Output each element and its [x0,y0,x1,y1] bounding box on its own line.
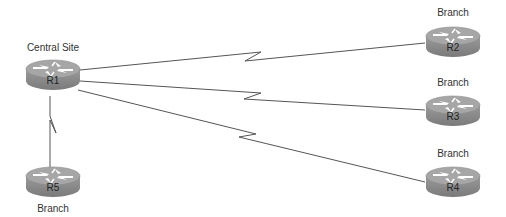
link-r1-r5 [50,96,56,170]
router-label-r1: R1 [47,75,60,86]
diagram-links [0,0,506,217]
caption-r5: Branch [37,203,69,214]
caption-r2: Branch [437,7,469,18]
link-r1-r3 [80,81,425,110]
network-diagram: Central Site R1 Branch R2 Branch R3 Bran… [0,0,506,217]
caption-r1: Central Site [27,42,79,53]
link-r1-r2 [80,43,425,70]
router-label-r3: R3 [447,111,460,122]
caption-r4: Branch [437,148,469,159]
caption-r3: Branch [437,77,469,88]
router-label-r4: R4 [447,182,460,193]
router-label-r2: R2 [447,42,460,53]
router-label-r5: R5 [47,182,60,193]
link-r1-r4 [78,90,425,182]
